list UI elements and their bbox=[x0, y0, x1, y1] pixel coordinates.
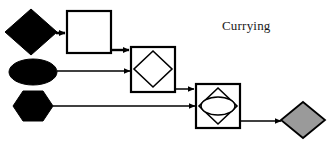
stage-three-inner-ellipse bbox=[201, 97, 235, 115]
input-ellipse[interactable] bbox=[9, 59, 57, 85]
diagram-svg bbox=[0, 0, 331, 150]
input-hexagon[interactable] bbox=[13, 91, 53, 121]
output-diamond[interactable] bbox=[281, 102, 325, 138]
diagram-canvas: Currying bbox=[0, 0, 331, 150]
diagram-title: Currying bbox=[222, 18, 271, 34]
input-diamond[interactable] bbox=[5, 9, 57, 55]
stage-one-box[interactable] bbox=[67, 11, 111, 53]
